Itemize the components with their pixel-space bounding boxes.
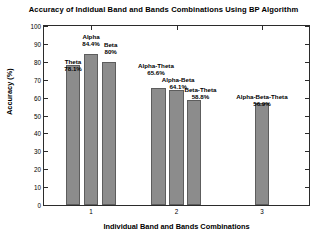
y-tick-mark (305, 151, 309, 152)
bar (84, 54, 98, 205)
bar (255, 103, 269, 205)
bar-value: 78.1% (64, 66, 82, 73)
bar-annotation: Theta78.1% (64, 59, 82, 73)
y-tick-label: 10 (34, 184, 41, 191)
y-tick-mark (44, 187, 48, 188)
y-tick-mark (305, 44, 309, 45)
y-tick-mark (305, 80, 309, 81)
y-tick-label: 60 (34, 94, 41, 101)
bar (169, 90, 183, 205)
y-tick-mark (305, 26, 309, 27)
y-tick-label: 50 (34, 112, 41, 119)
y-tick-mark (305, 187, 309, 188)
plot-area: 0102030405060708090100 123 Theta78.1%Alp… (43, 25, 310, 206)
x-tick-mark (91, 26, 92, 30)
x-tick-mark (177, 26, 178, 30)
y-tick-label: 70 (34, 76, 41, 83)
bar (102, 62, 116, 205)
bar (151, 88, 165, 205)
bar-annotation: Beta-Theta58.8% (184, 87, 216, 101)
y-tick-mark (305, 169, 309, 170)
y-tick-mark (44, 44, 48, 45)
y-tick-mark (44, 205, 48, 206)
bar-annotation: Alpha-Beta-Theta56.9% (236, 94, 287, 108)
y-tick-mark (44, 62, 48, 63)
y-tick-mark (305, 116, 309, 117)
bar-value: 58.8% (184, 94, 216, 101)
y-tick-label: 0 (37, 202, 41, 209)
x-tick-label: 1 (89, 208, 93, 215)
bar (66, 65, 80, 205)
bar-annotation: Alpha84.4% (82, 34, 100, 48)
y-tick-label: 100 (30, 23, 41, 30)
y-tick-mark (44, 151, 48, 152)
bar-value: 80% (104, 49, 117, 56)
x-tick-label: 3 (260, 208, 264, 215)
x-axis-label: Individual Band and Bands Combinations (43, 222, 310, 231)
y-tick-mark (44, 169, 48, 170)
y-tick-mark (44, 98, 48, 99)
y-tick-mark (44, 80, 48, 81)
y-tick-mark (44, 26, 48, 27)
y-tick-mark (44, 133, 48, 134)
chart-figure: Accuracy of Indidual Band and Bands Comb… (0, 0, 327, 252)
y-tick-label: 30 (34, 148, 41, 155)
y-tick-label: 90 (34, 40, 41, 47)
y-tick-label: 20 (34, 166, 41, 173)
y-tick-label: 80 (34, 58, 41, 65)
x-tick-label: 2 (175, 208, 179, 215)
bar-annotation: Beta80% (104, 42, 117, 56)
y-tick-mark (305, 205, 309, 206)
y-tick-mark (44, 116, 48, 117)
y-tick-mark (305, 133, 309, 134)
chart-title: Accuracy of Indidual Band and Bands Comb… (0, 5, 327, 14)
y-axis-label: Accuracy (%) (5, 68, 14, 115)
y-tick-mark (305, 62, 309, 63)
x-tick-mark (262, 26, 263, 30)
bar (187, 100, 201, 205)
bar-value: 56.9% (236, 101, 287, 108)
bar-value: 84.4% (82, 41, 100, 48)
y-tick-label: 40 (34, 130, 41, 137)
y-tick-mark (305, 98, 309, 99)
